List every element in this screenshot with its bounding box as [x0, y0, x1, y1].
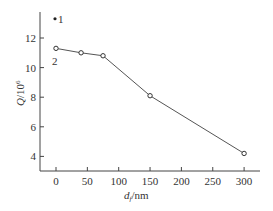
series-1-label: 1: [58, 13, 64, 25]
y-tick-label: 12: [25, 32, 36, 44]
series-2-label: 2: [52, 55, 58, 67]
x-tick-label: 150: [142, 175, 159, 187]
open-circle-marker: [79, 51, 83, 55]
series-lines: [56, 48, 244, 153]
x-tick-label: 0: [53, 175, 59, 187]
axes: [40, 12, 260, 171]
x-tick-label: 200: [173, 175, 190, 187]
x-axis-label: df/nm: [124, 189, 149, 203]
x-tick-label: 300: [236, 175, 253, 187]
y-tick-label: 4: [31, 150, 37, 162]
y-tick-label: 8: [31, 91, 37, 103]
open-circle-marker: [101, 54, 105, 58]
y-axis-label: Q/106: [14, 80, 26, 106]
x-tick-label: 250: [205, 175, 222, 187]
filled-dot-marker: [53, 17, 56, 20]
open-circle-marker: [148, 94, 152, 98]
x-tick-label: 50: [82, 175, 94, 187]
series-points: [53, 17, 246, 155]
ticks: 4681012050100150200250300: [25, 32, 253, 187]
open-circle-marker: [242, 151, 246, 155]
y-tick-label: 10: [25, 62, 37, 74]
open-circle-marker: [54, 46, 58, 50]
y-tick-label: 6: [31, 121, 37, 133]
x-tick-label: 100: [110, 175, 127, 187]
series-line: [56, 48, 244, 153]
line-chart: 4681012050100150200250300 1 2 df/nm Q/10…: [0, 0, 273, 211]
